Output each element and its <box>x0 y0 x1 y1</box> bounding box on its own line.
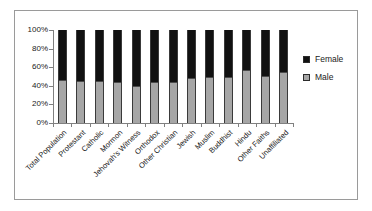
bar-segment-female[interactable] <box>206 30 213 77</box>
bar-series-group <box>53 30 293 123</box>
y-axis-tick-label: 80% <box>32 45 48 53</box>
x-axis-tick <box>201 124 202 127</box>
stacked-bar[interactable] <box>58 30 67 123</box>
x-axis-tick <box>238 124 239 127</box>
bar-segment-male[interactable] <box>280 72 287 123</box>
bar-segment-male[interactable] <box>170 82 177 123</box>
bar-segment-female[interactable] <box>77 30 84 81</box>
bar-slot <box>256 30 274 123</box>
x-axis-tick <box>71 124 72 127</box>
bar-segment-male[interactable] <box>225 77 232 123</box>
x-axis-tick <box>164 124 165 127</box>
bar-slot <box>182 30 200 123</box>
y-axis-tick-label: 0% <box>36 119 48 127</box>
bar-segment-female[interactable] <box>243 30 250 70</box>
bar-segment-male[interactable] <box>96 81 103 123</box>
chart-frame: 100%80%60%40%20%0% Total PopulationProte… <box>14 10 358 200</box>
x-axis-tick <box>108 124 109 127</box>
bar-segment-female[interactable] <box>114 30 121 82</box>
bar-segment-female[interactable] <box>151 30 158 82</box>
bar-slot <box>145 30 163 123</box>
stacked-bar[interactable] <box>224 30 233 123</box>
x-axis-tick <box>53 124 54 127</box>
legend-item[interactable]: Male <box>303 73 357 82</box>
bar-segment-female[interactable] <box>96 30 103 81</box>
x-axis-tick <box>219 124 220 127</box>
bar-slot <box>219 30 237 123</box>
bar-segment-male[interactable] <box>262 76 269 123</box>
stacked-bar[interactable] <box>76 30 85 123</box>
bar-slot <box>201 30 219 123</box>
stacked-bar[interactable] <box>113 30 122 123</box>
bar-slot <box>90 30 108 123</box>
x-axis-tick <box>127 124 128 127</box>
stacked-bar[interactable] <box>242 30 251 123</box>
stacked-bar[interactable] <box>132 30 141 123</box>
bar-segment-female[interactable] <box>133 30 140 86</box>
bar-segment-female[interactable] <box>262 30 269 76</box>
bar-slot <box>275 30 293 123</box>
x-axis-tick <box>275 124 276 127</box>
bar-segment-female[interactable] <box>188 30 195 78</box>
y-axis-tick-label: 60% <box>32 63 48 71</box>
stacked-bar[interactable] <box>187 30 196 123</box>
x-axis-tick <box>182 124 183 127</box>
bar-segment-male[interactable] <box>77 81 84 123</box>
bar-segment-male[interactable] <box>151 82 158 123</box>
bar-slot <box>238 30 256 123</box>
legend-item-label: Male <box>315 73 333 82</box>
bar-slot <box>127 30 145 123</box>
stacked-bar[interactable] <box>95 30 104 123</box>
bar-segment-female[interactable] <box>225 30 232 77</box>
x-axis-tick <box>145 124 146 127</box>
bar-slot <box>164 30 182 123</box>
stacked-bar[interactable] <box>205 30 214 123</box>
stacked-bar[interactable] <box>169 30 178 123</box>
x-axis-tick <box>90 124 91 127</box>
x-axis-tick <box>293 124 294 127</box>
legend-item[interactable]: Female <box>303 55 357 64</box>
bar-segment-female[interactable] <box>280 30 287 72</box>
bar-segment-female[interactable] <box>59 30 66 80</box>
bar-segment-male[interactable] <box>243 70 250 123</box>
bar-slot <box>108 30 126 123</box>
y-axis-tick-label: 100% <box>28 26 48 34</box>
stacked-bar[interactable] <box>279 30 288 123</box>
y-axis-tick-label: 40% <box>32 82 48 90</box>
stacked-bar[interactable] <box>261 30 270 123</box>
stacked-bar[interactable] <box>150 30 159 123</box>
bar-slot <box>53 30 71 123</box>
bar-segment-male[interactable] <box>133 86 140 123</box>
y-axis-tick-label: 20% <box>32 100 48 108</box>
bar-segment-male[interactable] <box>188 78 195 123</box>
bar-segment-male[interactable] <box>59 80 66 123</box>
legend-swatch-icon <box>303 74 310 81</box>
legend-item-label: Female <box>315 55 343 64</box>
legend-swatch-icon <box>303 56 310 63</box>
x-axis-tick <box>256 124 257 127</box>
chart-legend: FemaleMale <box>303 55 357 91</box>
bar-segment-male[interactable] <box>114 82 121 123</box>
bar-slot <box>71 30 89 123</box>
bar-segment-male[interactable] <box>206 77 213 124</box>
bar-segment-female[interactable] <box>170 30 177 82</box>
